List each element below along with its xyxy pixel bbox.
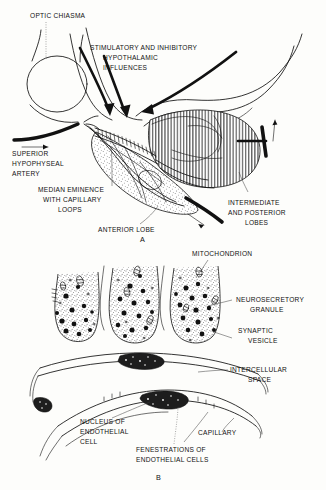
label-space-line2: SPACE	[248, 376, 271, 383]
label-lobes-line3: LOBES	[245, 219, 269, 226]
label-lobes-line2: AND POSTERIOR	[228, 209, 286, 216]
label-capillary: CAPILLARY	[198, 429, 237, 436]
label-granule-line1: NEUROSECRETORY	[236, 296, 304, 303]
label-nucleus-line1: NUCLEUS OF	[80, 418, 125, 425]
label-fenestrations-line2: ENDOTHELIAL CELLS	[136, 456, 209, 463]
label-space-line1: INTERCELLULAR	[230, 366, 287, 373]
label-optic-chiasma: OPTIC CHIASMA	[30, 12, 86, 19]
panel-b-letter: B	[156, 473, 161, 482]
label-fenestrations-line1: FENESTRATIONS OF	[136, 446, 206, 453]
label-influences-line1: STIMULATORY AND INHIBITORY	[90, 44, 198, 51]
anatomy-figure: OPTIC CHIASMA STIMULATORY AND INHIBITORY…	[0, 0, 326, 490]
label-median-eminence-line3: LOOPS	[58, 206, 82, 213]
label-nucleus-line3: CELL	[80, 438, 98, 445]
label-artery-line3: ARTERY	[12, 170, 40, 177]
label-median-eminence-line2: WITH CAPILLARY	[43, 196, 102, 203]
label-artery-line1: SUPERIOR	[12, 150, 48, 157]
label-influences-line2: HYPOTHALAMIC	[103, 54, 158, 61]
label-vesicle-line2: VESICLE	[248, 337, 278, 344]
panel-a-letter: A	[140, 235, 145, 244]
label-influences-line3: INFLUENCES	[103, 64, 148, 71]
label-granule-line2: GRANULE	[250, 306, 284, 313]
label-lobes-line1: INTERMEDIATE	[228, 199, 280, 206]
label-anterior-lobe: ANTERIOR LOBE	[98, 226, 155, 233]
label-median-eminence-line1: MEDIAN EMINENCE	[38, 186, 104, 193]
figure-background	[0, 0, 326, 490]
label-nucleus-line2: ENDOTHELIAL	[80, 428, 129, 435]
label-artery-line2: HYPOPHYSEAL	[12, 160, 64, 167]
label-vesicle-line1: SYNAPTIC	[238, 327, 273, 334]
label-mitochondrion: MITOCHONDRION	[192, 250, 252, 257]
